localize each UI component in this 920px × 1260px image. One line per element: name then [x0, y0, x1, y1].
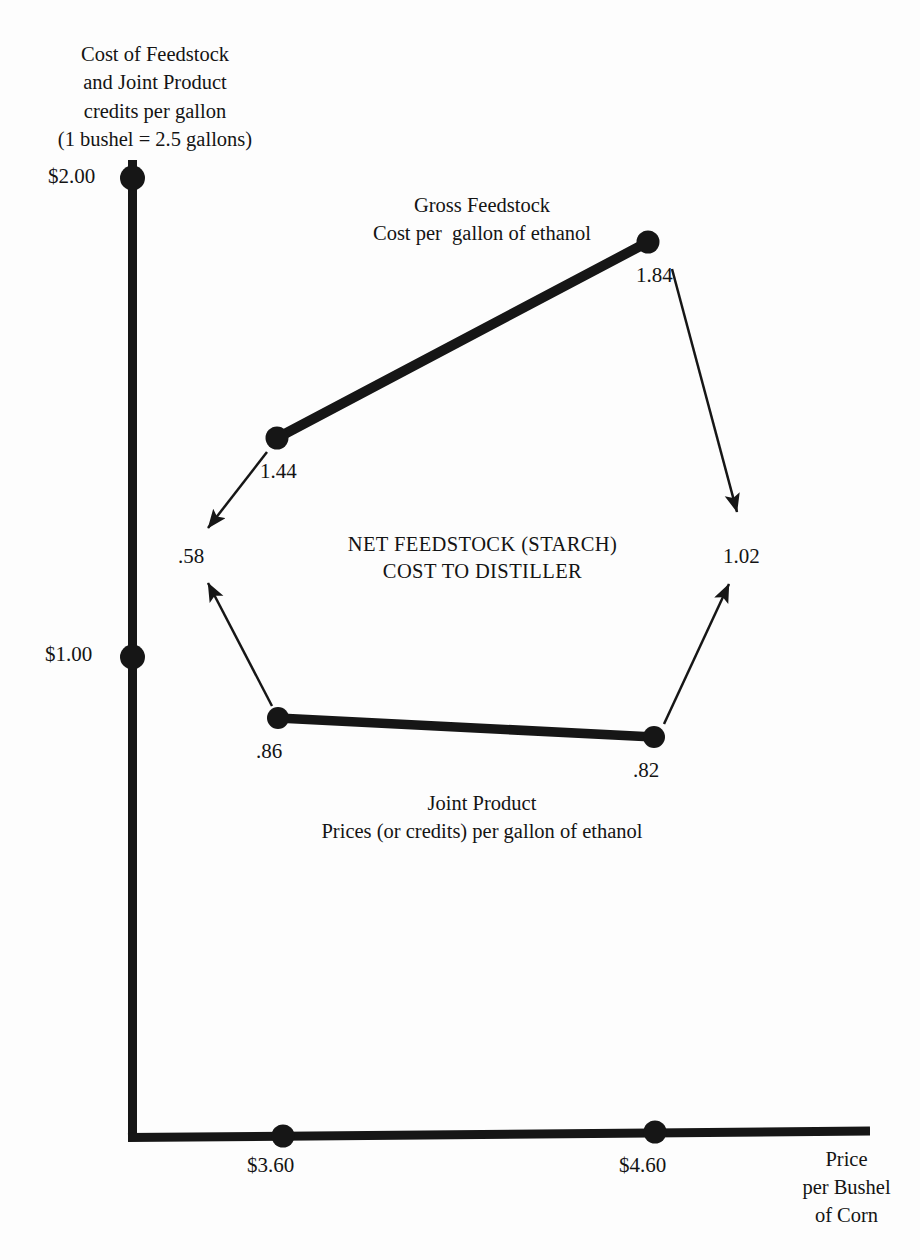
arrow-gross-to-net-left [208, 452, 267, 528]
upper-series-caption: Gross Feedstock Cost per gallon of ethan… [317, 192, 647, 248]
chart-plot-area [0, 0, 920, 1260]
center-annotation-net-feedstock-cost: NET FEEDSTOCK (STARCH) COST TO DISTILLER [305, 531, 660, 586]
data-label-gross-4-60: 1.84 [636, 262, 673, 289]
y-tick-marker-1-00 [120, 645, 145, 670]
series-joint-line [278, 718, 654, 737]
data-label-net-3-60: .58 [178, 543, 204, 570]
y-axis-tick-label-2-00: $2.00 [48, 163, 95, 190]
arrow-joint-to-net-right [664, 584, 729, 724]
data-label-net-4-60: 1.02 [723, 543, 760, 570]
lower-series-caption: Joint Product Prices (or credits) per ga… [247, 790, 717, 846]
data-point-joint-4-60 [643, 726, 665, 748]
y-axis-caption: Cost of Feedstock and Joint Product cred… [20, 40, 290, 153]
x-tick-marker-3-60 [272, 1125, 295, 1148]
series-gross-feedstock-cost [266, 231, 660, 450]
data-point-gross-3-60 [266, 427, 289, 450]
x-axis-line [128, 1131, 870, 1138]
y-tick-marker-2-00 [120, 166, 145, 191]
y-axis-tick-label-1-00: $1.00 [45, 641, 92, 668]
x-axis-tick-label-3-60: $3.60 [247, 1152, 294, 1179]
x-axis-tick-label-4-60: $4.60 [619, 1152, 666, 1179]
arrow-gross-to-net-right [672, 269, 737, 512]
data-label-joint-3-60: .86 [256, 738, 282, 765]
series-joint-product-credits [267, 707, 665, 748]
data-label-joint-4-60: .82 [633, 757, 659, 784]
x-tick-marker-4-60 [644, 1121, 667, 1144]
axis-tick-markers [120, 166, 667, 1148]
arrow-joint-to-net-left [208, 583, 272, 706]
data-point-joint-3-60 [267, 707, 289, 729]
chart-figure: Cost of Feedstock and Joint Product cred… [0, 0, 920, 1260]
x-axis-caption: Price per Bushel of Corn [789, 1146, 904, 1230]
series-gross-line [277, 242, 648, 438]
axis-lines [128, 160, 870, 1138]
data-label-gross-3-60: 1.44 [260, 458, 297, 485]
